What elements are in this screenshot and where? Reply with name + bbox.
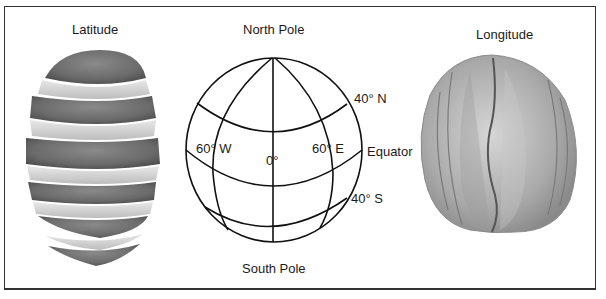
longitude-orange-illustration <box>0 0 606 299</box>
